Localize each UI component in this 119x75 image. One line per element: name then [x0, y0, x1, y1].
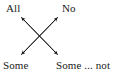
- arrow-cross-group: [0, 0, 119, 75]
- contradictories-diagram: All No Some Some ... not: [0, 0, 119, 75]
